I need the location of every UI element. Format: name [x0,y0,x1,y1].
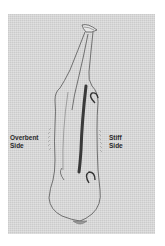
stiff-side-label: Stiff Side [109,134,123,150]
stiff-side-label-line1: Stiff [109,134,123,142]
spine-curve [79,86,86,172]
overbent-side-label: Overbent Side [10,134,39,150]
inner-left-line [63,92,68,170]
rear-left-hoof-icon [60,168,64,180]
side-hatching [48,128,102,152]
overbent-side-label-line1: Overbent [10,134,39,142]
horse-tail [73,221,87,224]
stiff-side-label-line2: Side [109,142,123,150]
overbent-side-label-line2: Side [10,142,39,150]
horse-body-outline [49,32,100,221]
horse-head [82,25,97,33]
horse-top-view-illustration [0,0,165,246]
rear-right-hoof-icon [87,172,96,183]
front-right-hoof-icon [91,93,98,103]
